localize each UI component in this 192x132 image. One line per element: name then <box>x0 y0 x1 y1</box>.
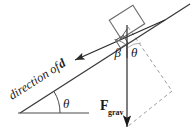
dashed-parallel-component <box>127 91 172 127</box>
incline-angle-arc <box>54 91 60 113</box>
theta-angle-label: θ <box>131 45 138 60</box>
displacement-label-text: direction of <box>6 59 63 103</box>
force-subscript-label: grav <box>108 108 124 117</box>
incline-angle-label: θ <box>63 96 70 111</box>
gravity-force-label-group: F grav <box>100 98 124 117</box>
physics-diagram-figure: direction of d θ β θ F grav <box>0 0 192 132</box>
beta-angle-label: β <box>114 45 122 60</box>
force-component-parallelogram <box>127 27 172 127</box>
displacement-label-group: direction of d <box>6 56 69 103</box>
diagram-canvas: direction of d θ β θ F grav <box>0 0 192 132</box>
